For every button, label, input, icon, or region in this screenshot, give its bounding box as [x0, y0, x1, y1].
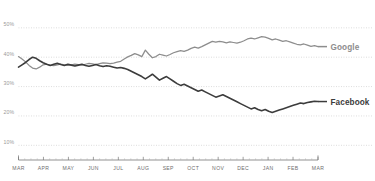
y-tick-label: 40%: [4, 51, 15, 57]
y-tick-label: 10%: [4, 139, 15, 145]
series-legend: GoogleFacebook: [318, 43, 370, 107]
x-tick-label: NOV: [212, 165, 224, 171]
series-line-facebook: [19, 57, 319, 112]
series-lines: [19, 37, 319, 113]
y-axis-tick-labels: 10%20%30%40%50%: [4, 21, 15, 144]
x-tick-label: MAR: [312, 165, 324, 171]
x-tick-label: APR: [38, 165, 50, 171]
x-tick-label: FEB: [288, 165, 299, 171]
x-axis: [19, 155, 319, 160]
line-chart: 10%20%30%40%50% MARAPRMAYJUNJULAUGSEPOCT…: [0, 0, 375, 181]
legend-label-facebook: Facebook: [331, 98, 370, 107]
series-line-google: [19, 37, 319, 69]
x-tick-label: DEC: [237, 165, 249, 171]
x-tick-label: JAN: [263, 165, 274, 171]
gridline-group: [19, 28, 373, 146]
y-tick-label: 30%: [4, 80, 15, 86]
x-tick-label: MAY: [63, 165, 75, 171]
x-tick-label: JUL: [113, 165, 123, 171]
y-tick-label: 50%: [4, 21, 15, 27]
x-axis-tick-labels: MARAPRMAYJUNJULAUGSEPOCTNOVDECJANFEBMAR: [12, 165, 324, 171]
x-tick-label: OCT: [187, 165, 199, 171]
legend-label-google: Google: [331, 43, 360, 52]
y-tick-label: 20%: [4, 109, 15, 115]
chart-canvas: 10%20%30%40%50% MARAPRMAYJUNJULAUGSEPOCT…: [0, 0, 375, 181]
x-tick-label: AUG: [137, 165, 149, 171]
x-tick-label: MAR: [12, 165, 24, 171]
x-tick-label: SEP: [163, 165, 174, 171]
x-tick-label: JUN: [88, 165, 99, 171]
